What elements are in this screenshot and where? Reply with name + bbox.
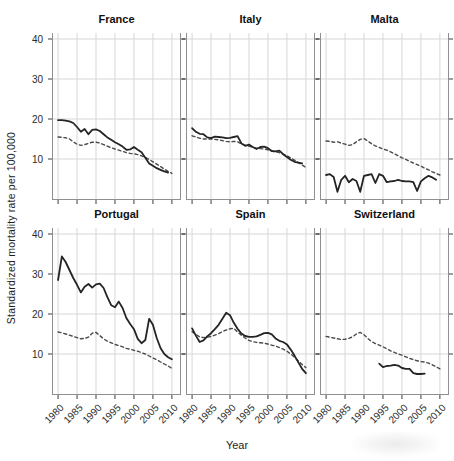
panel-italy [186, 33, 315, 200]
panel-title-france: France [52, 12, 181, 26]
y-tick-label: 30 [13, 268, 43, 281]
y-tick-label: 10 [13, 153, 43, 166]
panel-title-malta: Malta [320, 12, 449, 26]
y-tick-label: 20 [13, 113, 43, 126]
panel-title-spain: Spain [186, 207, 315, 221]
panel-title-portugal: Portugal [52, 207, 181, 221]
panel-malta [320, 33, 449, 200]
scan-smudge [348, 430, 444, 458]
y-tick-label: 10 [13, 348, 43, 361]
panel-plot-area [320, 33, 449, 200]
y-tick-label: 30 [13, 73, 43, 86]
panel-switzerland [320, 228, 449, 395]
panel-plot-area [52, 228, 181, 395]
panel-france [52, 33, 181, 200]
panel-plot-area [186, 33, 315, 200]
series-line-solid [58, 120, 168, 172]
panel-plot-area [52, 33, 181, 200]
panel-title-switzerland: Switzerland [320, 207, 449, 221]
panel-portugal [52, 228, 181, 395]
panel-plot-area [186, 228, 315, 395]
mortality-trellis-figure: Standardized mortality rate per 100,000 … [0, 0, 454, 461]
series-line-solid [326, 174, 436, 192]
panel-plot-area [320, 228, 449, 395]
series-line-solid [192, 128, 302, 163]
panel-title-italy: Italy [186, 12, 315, 26]
y-tick-label: 40 [13, 228, 43, 241]
y-tick-label: 20 [13, 308, 43, 321]
y-tick-label: 40 [13, 33, 43, 46]
panel-spain [186, 228, 315, 395]
